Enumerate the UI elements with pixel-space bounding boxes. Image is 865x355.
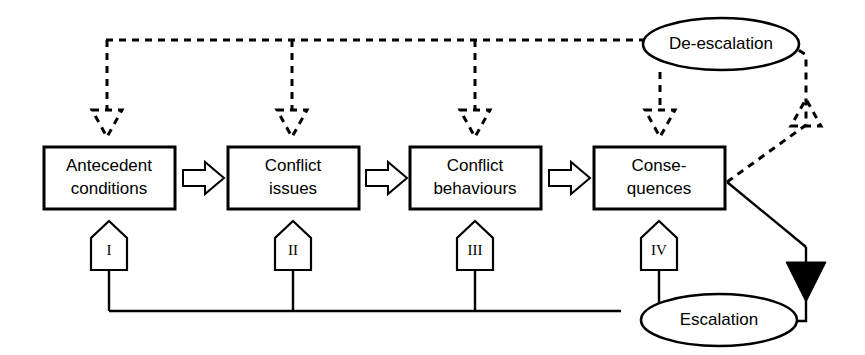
flow-arrow-1 [183,162,224,194]
stage-label-antecedent-conditions-line1: Antecedent [66,156,152,175]
stage-label-conflict-behaviours-line1: Conflict [447,156,504,175]
stage-label-consequences-line2: quences [627,179,691,198]
stage-numeral-4: IV [651,242,667,258]
feedback-label-escalation: Escalation [680,310,758,329]
flow-arrow-3 [549,162,590,194]
stage-numeral-1: I [107,242,112,258]
diagram-canvas: Antecedent conditions Conflict issues Co… [0,0,865,355]
feedback-label-de-escalation: De-escalation [669,34,773,53]
stage-label-conflict-issues-line2: issues [269,179,317,198]
stage-label-conflict-behaviours-line2: behaviours [433,179,516,198]
escalation-return-line-upper [727,182,806,247]
stage-numeral-2: II [288,242,298,258]
stage-numeral-3: III [468,242,483,258]
stage-label-consequences-line1: Conse- [632,156,687,175]
de-escalation-arrowhead-3 [460,110,490,137]
conflict-process-diagram: Antecedent conditions Conflict issues Co… [0,0,865,355]
de-escalation-arrowhead-4 [645,110,675,137]
stage-label-antecedent-conditions-line2: conditions [71,179,148,198]
stage-label-conflict-issues-line1: Conflict [265,156,322,175]
de-escalation-arrowhead-1 [92,110,122,137]
de-escalation-arrowhead-2 [277,110,307,137]
escalation-return-arrowhead [786,262,826,302]
flow-arrow-2 [366,162,407,194]
